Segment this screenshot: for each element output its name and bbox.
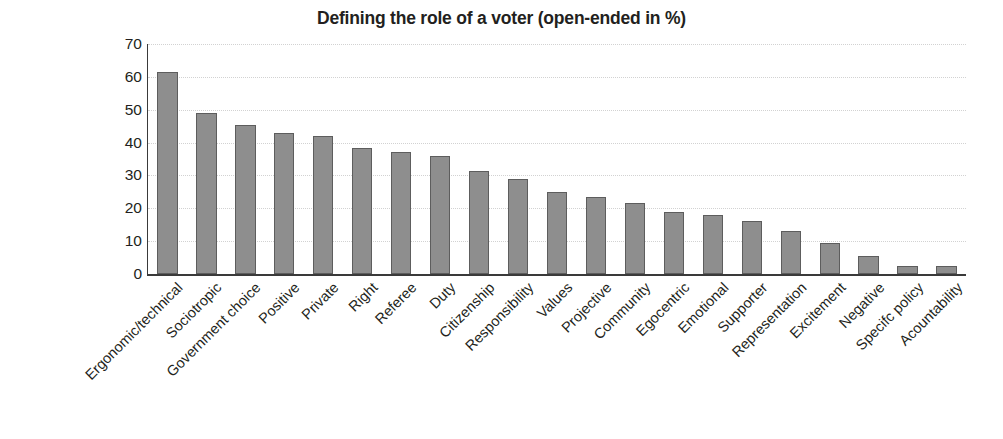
bar (157, 72, 177, 274)
bar (352, 148, 372, 275)
plot-area (148, 44, 966, 274)
y-axis-tick-label: 50 (112, 102, 142, 118)
bar (196, 113, 216, 274)
bar (469, 171, 489, 275)
bar (586, 197, 606, 274)
bar (235, 125, 255, 275)
bar (391, 152, 411, 274)
bar (936, 266, 956, 274)
x-axis-tick-label: Right (346, 280, 380, 314)
bar (313, 136, 333, 274)
x-axis-tick-label: Referee (373, 280, 420, 327)
bar (508, 179, 528, 274)
y-axis-tick-label: 60 (112, 69, 142, 85)
bar (781, 231, 801, 274)
x-axis-tick-labels: Ergonomic/technicalSociotropicGovernment… (148, 274, 1003, 439)
bar-series (148, 44, 966, 274)
y-axis-tick-label: 10 (112, 233, 142, 249)
bar (274, 133, 294, 274)
x-axis-tick-label: Positive (256, 280, 302, 326)
bar (703, 215, 723, 274)
y-axis-tick-label: 70 (112, 36, 142, 52)
bar (625, 203, 645, 274)
y-axis-tick-label: 20 (112, 200, 142, 216)
bar (742, 221, 762, 274)
bar (858, 256, 878, 274)
bar (820, 243, 840, 274)
bar (897, 266, 917, 274)
x-axis-tick-label: Private (299, 280, 341, 322)
y-axis-tick-label: 0 (112, 266, 142, 282)
chart-title: Defining the role of a voter (open-ended… (0, 8, 1003, 29)
bar (430, 156, 450, 274)
chart-figure: Defining the role of a voter (open-ended… (0, 0, 1003, 439)
y-axis-tick-label: 30 (112, 167, 142, 183)
x-axis-tick-label: Duty (427, 280, 458, 311)
bar (664, 212, 684, 274)
y-axis-tick-label: 40 (112, 135, 142, 151)
bar (547, 192, 567, 274)
y-axis-tick-labels: 010203040506070 (108, 0, 142, 439)
